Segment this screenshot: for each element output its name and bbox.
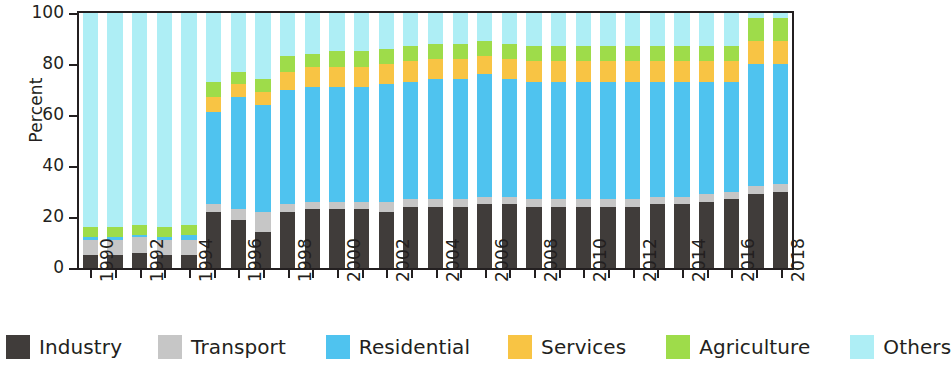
bar-segment-others <box>502 13 517 44</box>
y-tick-mark <box>69 217 78 219</box>
bar-segment-agriculture <box>650 46 665 61</box>
bar-segment-others <box>453 13 468 44</box>
bar-segment-residential <box>206 112 221 204</box>
bar-segment-services <box>453 59 468 79</box>
bar-segment-services <box>674 61 689 81</box>
bar-segment-transport <box>502 197 517 205</box>
bar-segment-industry <box>526 207 541 268</box>
bar-segment-residential <box>477 74 492 196</box>
y-tick-mark <box>69 166 78 168</box>
bar-segment-transport <box>206 204 221 212</box>
bar-segment-agriculture <box>477 41 492 56</box>
legend-item-services[interactable]: Services <box>508 335 626 359</box>
bar-segment-transport <box>428 199 443 207</box>
legend-label: Agriculture <box>699 335 810 359</box>
bar-segment-agriculture <box>600 46 615 61</box>
bar-segment-residential <box>305 87 320 202</box>
bar-segment-transport <box>231 209 246 219</box>
bar-segment-services <box>650 61 665 81</box>
bar-segment-industry <box>477 204 492 268</box>
legend-swatch-services <box>508 335 532 359</box>
legend-item-residential[interactable]: Residential <box>326 335 470 359</box>
bar-segment-industry <box>181 255 196 268</box>
legend-swatch-agriculture <box>666 335 690 359</box>
x-tick-mark <box>288 270 290 278</box>
bar-segment-agriculture <box>724 46 739 61</box>
bar-segment-transport <box>132 237 147 252</box>
bar-segment-residential <box>428 79 443 199</box>
bar-1995 <box>206 13 221 268</box>
bar-segment-services <box>305 67 320 87</box>
bar-segment-agriculture <box>107 227 122 237</box>
bar-segment-transport <box>453 199 468 207</box>
bar-1991 <box>107 13 122 268</box>
legend-label: Industry <box>39 335 122 359</box>
bar-segment-transport <box>576 199 591 207</box>
legend-label: Transport <box>191 335 286 359</box>
bar-segment-residential <box>526 82 541 199</box>
bar-2002 <box>379 13 394 268</box>
bar-segment-residential <box>576 82 591 199</box>
x-tick-label: 2012 <box>640 238 660 282</box>
legend-item-transport[interactable]: Transport <box>158 335 286 359</box>
x-tick-mark <box>781 270 783 278</box>
y-tick-label: 20 <box>42 206 64 226</box>
bar-segment-agriculture <box>379 49 394 64</box>
bar-segment-industry <box>724 199 739 268</box>
bar-segment-others <box>477 13 492 41</box>
bars-container <box>78 13 793 268</box>
bar-segment-transport <box>699 194 714 202</box>
bar-segment-residential <box>724 82 739 192</box>
x-tick-mark <box>633 270 635 278</box>
bar-1997 <box>255 13 270 268</box>
bar-segment-industry <box>773 192 788 269</box>
legend-item-others[interactable]: Others <box>850 335 951 359</box>
legend-swatch-industry <box>6 335 30 359</box>
bar-segment-transport <box>551 199 566 207</box>
bar-segment-residential <box>354 87 369 202</box>
x-tick-label: 2010 <box>590 238 610 282</box>
bar-segment-industry <box>83 255 98 268</box>
bar-1993 <box>157 13 172 268</box>
bar-segment-transport <box>403 199 418 207</box>
bar-segment-agriculture <box>773 18 788 41</box>
x-tick-mark <box>534 270 536 278</box>
bar-segment-agriculture <box>699 46 714 61</box>
bar-segment-others <box>305 13 320 54</box>
legend-label: Others <box>883 335 951 359</box>
bar-segment-services <box>625 61 640 81</box>
bar-segment-services <box>551 61 566 81</box>
bar-1998 <box>280 13 295 268</box>
bar-segment-transport <box>625 199 640 207</box>
bar-segment-industry <box>576 207 591 268</box>
bar-2006 <box>477 13 492 268</box>
bar-segment-industry <box>132 253 147 268</box>
bar-segment-others <box>83 13 98 227</box>
y-tick-mark <box>69 268 78 270</box>
bar-segment-services <box>600 61 615 81</box>
bar-segment-residential <box>280 90 295 205</box>
bar-2000 <box>329 13 344 268</box>
y-tick-label: 100 <box>32 2 64 22</box>
bar-segment-others <box>551 13 566 46</box>
y-tick-mark <box>69 115 78 117</box>
bar-segment-services <box>502 59 517 79</box>
bar-segment-industry <box>625 207 640 268</box>
bar-segment-residential <box>255 105 270 212</box>
bar-segment-industry <box>280 212 295 268</box>
bar-segment-residential <box>773 64 788 184</box>
y-tick-mark <box>69 13 78 15</box>
legend-item-agriculture[interactable]: Agriculture <box>666 335 810 359</box>
legend-item-industry[interactable]: Industry <box>6 335 122 359</box>
bar-segment-transport <box>329 202 344 210</box>
bar-segment-agriculture <box>748 18 763 41</box>
bar-segment-others <box>674 13 689 46</box>
bar-segment-transport <box>354 202 369 210</box>
bar-segment-others <box>379 13 394 49</box>
bar-2009 <box>551 13 566 268</box>
bar-segment-residential <box>625 82 640 199</box>
bar-2004 <box>428 13 443 268</box>
legend-swatch-others <box>850 335 874 359</box>
x-tick-label: 2006 <box>492 238 512 282</box>
